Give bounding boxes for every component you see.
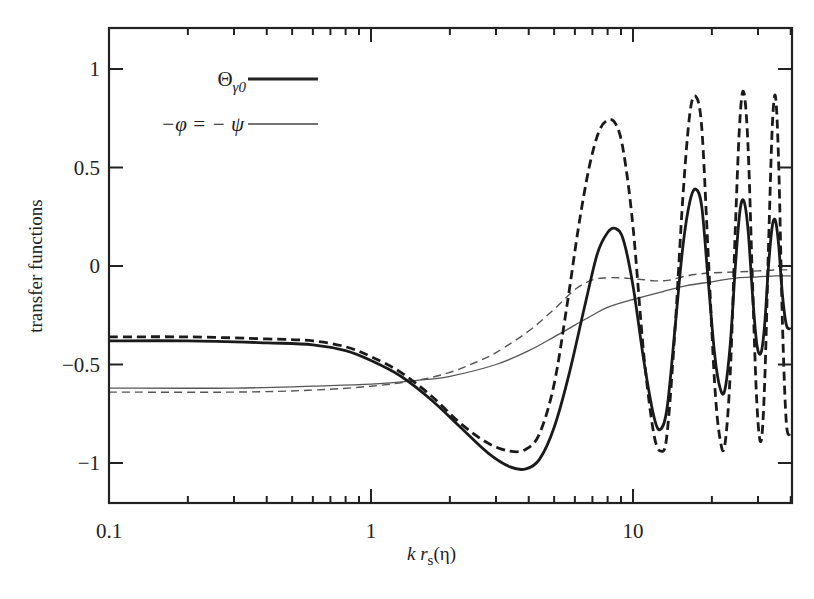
x-tick-label: 10 (623, 519, 644, 543)
legend-label-theta: Θγ0 (217, 67, 246, 95)
y-tick-label: 1 (90, 57, 101, 81)
legend: Θγ0 −φ = − ψ (161, 67, 318, 136)
plot-curves (109, 91, 791, 469)
x-tick-label: 0.1 (96, 519, 122, 543)
y-tick-label: −1 (78, 451, 100, 475)
plot-frame (109, 28, 792, 503)
y-tick-label: 0 (90, 254, 101, 278)
y-axis-label: transfer functions (25, 199, 46, 332)
series-thin-dashed (109, 270, 791, 392)
transfer-functions-chart: 0.1110 −1−0.500.51 Θγ0 −φ = − ψ transfer… (0, 0, 814, 599)
x-tick-label: 1 (366, 519, 377, 543)
y-tick-label: 0.5 (74, 156, 100, 180)
y-tick-label: −0.5 (62, 353, 100, 377)
series-thick-dashed (109, 91, 791, 452)
x-axis-label: k rs(η) (407, 543, 456, 568)
legend-label-phi-psi: −φ = − ψ (161, 112, 245, 136)
series-thin-solid (109, 276, 791, 388)
series-thick-solid (109, 189, 791, 470)
